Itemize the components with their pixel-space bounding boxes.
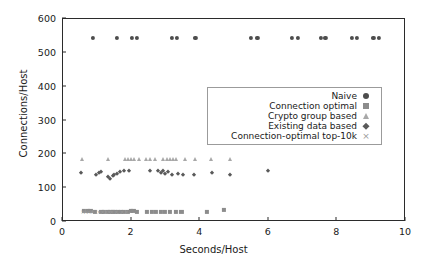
- legend-item-label: Naive: [331, 91, 357, 101]
- legend-item-square: Connection optimal: [212, 101, 375, 111]
- data-point-square: [168, 209, 172, 213]
- legend-item-circle: Naive: [212, 91, 375, 101]
- y-tick-mark: [62, 153, 66, 154]
- legend-item-diamond: Existing data based: [212, 121, 375, 131]
- data-point-diamond: [170, 172, 175, 177]
- data-point-triangle: [148, 157, 152, 161]
- x-tick-mark: [199, 217, 200, 221]
- x-tick-label: 10: [399, 226, 411, 237]
- data-point-triangle: [193, 157, 197, 161]
- y-tick-mark: [62, 51, 66, 52]
- data-point-triangle: [132, 157, 136, 161]
- y-tick-label: 0: [16, 216, 56, 227]
- data-point-diamond: [210, 170, 215, 175]
- data-point-triangle: [174, 157, 178, 161]
- legend-marker-diamond-icon: [357, 121, 375, 131]
- y-tick-mark: [62, 18, 66, 19]
- y-tick-mark: [62, 85, 66, 86]
- chart-legend: NaiveConnection optimalCrypto group base…: [207, 87, 382, 145]
- data-point-circle: [350, 36, 354, 40]
- data-point-diamond: [192, 173, 197, 178]
- data-point-circle: [170, 36, 174, 40]
- legend-marker-triangle-icon: [357, 111, 375, 121]
- data-point-square: [145, 209, 149, 213]
- data-point-circle: [175, 36, 179, 40]
- data-point-diamond: [148, 169, 153, 174]
- legend-item-label: Existing data based: [268, 121, 357, 131]
- data-point-square: [135, 209, 139, 213]
- data-point-square: [174, 209, 178, 213]
- scatter-chart-figure: 0246810 0100200300400500600 Seconds/Host…: [0, 0, 427, 265]
- data-point-circle: [371, 36, 375, 40]
- x-axis-label: Seconds/Host: [0, 244, 427, 255]
- x-tick-label: 0: [59, 226, 65, 237]
- data-point-triangle: [80, 157, 84, 161]
- x-tick-label: 6: [265, 226, 271, 237]
- data-point-circle: [255, 36, 259, 40]
- data-point-diamond: [181, 173, 186, 178]
- legend-marker-cross-icon: [357, 131, 375, 141]
- data-point-circle: [91, 36, 95, 40]
- data-point-triangle: [228, 157, 232, 161]
- data-point-circle: [296, 36, 300, 40]
- data-point-circle: [323, 36, 327, 40]
- data-point-circle: [355, 36, 359, 40]
- data-point-cross: [90, 208, 95, 213]
- data-point-square: [205, 210, 209, 214]
- data-point-cross: [114, 209, 119, 214]
- data-point-triangle: [183, 157, 187, 161]
- x-tick-mark: [267, 217, 268, 221]
- data-point-square: [163, 209, 167, 213]
- data-point-triangle: [153, 157, 157, 161]
- data-point-cross: [124, 208, 129, 213]
- data-point-triangle: [137, 157, 141, 161]
- x-tick-label: 2: [128, 226, 134, 237]
- legend-item-cross: Connection-optimal top-10k: [212, 131, 375, 141]
- data-point-triangle: [144, 157, 148, 161]
- x-tick-label: 4: [196, 226, 202, 237]
- x-tick-mark: [336, 217, 337, 221]
- data-point-circle: [115, 36, 119, 40]
- y-tick-mark: [62, 119, 66, 120]
- legend-marker-circle-icon: [357, 91, 375, 101]
- data-point-diamond: [266, 169, 271, 174]
- data-point-diamond: [175, 172, 180, 177]
- legend-marker-square-icon: [357, 101, 375, 111]
- data-point-triangle: [209, 157, 213, 161]
- data-point-circle: [376, 36, 380, 40]
- data-point-circle: [193, 36, 197, 40]
- data-point-triangle: [106, 157, 110, 161]
- x-tick-mark: [405, 217, 406, 221]
- data-point-circle: [249, 36, 253, 40]
- data-point-diamond: [99, 170, 104, 175]
- legend-item-label: Crypto group based: [268, 111, 357, 121]
- data-point-diamond: [78, 171, 83, 176]
- y-tick-mark: [62, 187, 66, 188]
- legend-item-label: Connection-optimal top-10k: [231, 131, 357, 141]
- y-tick-label: 600: [16, 13, 56, 24]
- data-point-diamond: [126, 168, 131, 173]
- data-point-square: [179, 210, 183, 214]
- y-tick-mark: [62, 221, 66, 222]
- legend-item-label: Connection optimal: [269, 101, 357, 111]
- legend-item-triangle: Crypto group based: [212, 111, 375, 121]
- y-axis-label: Connections/Host: [18, 44, 29, 184]
- x-tick-mark: [130, 217, 131, 221]
- data-point-square: [222, 208, 226, 212]
- data-point-circle: [135, 36, 139, 40]
- x-tick-label: 8: [333, 226, 339, 237]
- data-point-circle: [290, 36, 294, 40]
- data-point-diamond: [228, 172, 233, 177]
